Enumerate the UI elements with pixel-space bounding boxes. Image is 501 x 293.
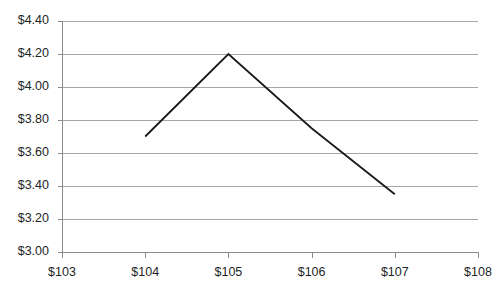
y-tick-label: $4.40	[18, 13, 49, 27]
x-tick-label: $107	[381, 265, 409, 279]
y-tick-label: $3.60	[18, 145, 49, 159]
y-axis-group	[58, 22, 63, 253]
line-chart: $3.00$3.20$3.40$3.60$3.80$4.00$4.20$4.40…	[0, 0, 501, 293]
y-tick-label: $4.00	[18, 79, 49, 93]
y-tick-label: $3.40	[18, 178, 49, 192]
gridlines-group	[62, 22, 478, 253]
x-tick-label: $104	[131, 265, 159, 279]
y-tick-label: $3.00	[18, 244, 49, 258]
chart-canvas: $3.00$3.20$3.40$3.60$3.80$4.00$4.20$4.40…	[0, 0, 501, 293]
x-axis-group	[63, 253, 479, 258]
y-tick-label: $3.20	[18, 211, 49, 225]
x-tick-label: $103	[48, 265, 76, 279]
x-tick-label: $108	[464, 265, 492, 279]
x-tick-labels-group: $103$104$105$106$107$108	[48, 265, 492, 279]
y-tick-label: $3.80	[18, 112, 49, 126]
x-tick-label: $106	[298, 265, 326, 279]
y-tick-label: $4.20	[18, 46, 49, 60]
y-tick-labels-group: $3.00$3.20$3.40$3.60$3.80$4.00$4.20$4.40	[18, 13, 49, 258]
x-tick-label: $105	[214, 265, 242, 279]
data-line-series	[145, 54, 395, 194]
data-series-group	[145, 54, 395, 194]
